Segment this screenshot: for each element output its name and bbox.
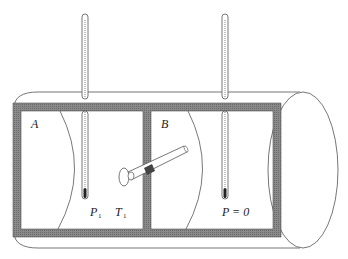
- chamber-a-conditions: P 1 T 1: [89, 205, 127, 220]
- cylinder-body: [14, 92, 300, 248]
- chamber-b-curvature-line: [186, 111, 203, 229]
- pressure-subscript-a: 1: [98, 212, 102, 220]
- pressure-label-a: P: [89, 205, 98, 219]
- temperature-subscript-a: 1: [123, 212, 127, 220]
- chamber-a-label: A: [30, 117, 39, 131]
- temperature-label-a: T: [115, 205, 123, 219]
- chamber-b-pressure-label: P = 0: [221, 205, 249, 219]
- free-expansion-diagram: A B P 1 T 1 P = 0: [0, 0, 348, 259]
- valve-stopcock-icon[interactable]: [119, 145, 189, 186]
- chamber-a-curvature-line: [58, 111, 75, 229]
- chamber-b-label: B: [161, 117, 169, 131]
